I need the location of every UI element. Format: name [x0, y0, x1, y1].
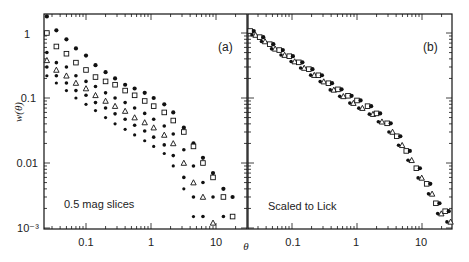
x-tick-a-1: 1 — [148, 236, 154, 248]
y-tick-0.001: 10⁻³ — [17, 222, 39, 234]
panel-a-label: (a) — [218, 40, 233, 54]
x-tick-b-10: 10 — [415, 236, 427, 248]
y-axis-label: w(θ) — [12, 102, 25, 122]
panel-b-annotation: Scaled to Lick — [268, 200, 337, 212]
x-tick-b-0.1: 0.1 — [285, 236, 300, 248]
x-tick-a-0.1: 0.1 — [78, 236, 93, 248]
panel-b-label: (b) — [423, 40, 438, 54]
panel-a-annotation: 0.5 mag slices — [64, 198, 135, 210]
x-tick-a-10: 10 — [210, 236, 222, 248]
y-tick-0.01: 0.01 — [17, 157, 38, 169]
x-tick-b-1: 1 — [353, 236, 359, 248]
panel-a — [44, 14, 247, 229]
figure: 1 0.1 0.01 10⁻³ w(θ) 0.1 1 10 0.1 1 10 θ… — [0, 0, 469, 262]
y-tick-1: 1 — [24, 28, 30, 40]
x-axis-label: θ — [243, 240, 249, 252]
